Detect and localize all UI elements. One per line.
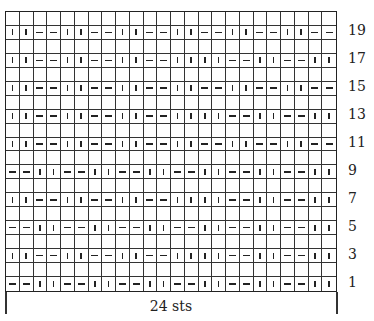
blank-stitch-cell: [254, 263, 268, 277]
knit-stitch-cell: [295, 138, 309, 152]
knit-stitch-cell: [309, 221, 323, 235]
purl-stitch-cell: [185, 165, 199, 179]
blank-stitch-cell: [34, 151, 48, 165]
blank-stitch-cell: [199, 68, 213, 82]
knit-stitch-cell: [309, 54, 323, 68]
blank-stitch-cell: [267, 68, 281, 82]
knit-stitch-cell: [20, 26, 34, 40]
knit-stitch-cell: [254, 110, 268, 124]
blank-stitch-cell: [130, 235, 144, 249]
blank-stitch-cell: [61, 40, 75, 54]
blank-stitch-cell: [61, 151, 75, 165]
purl-stitch-cell: [281, 54, 295, 68]
purl-stitch-cell: [322, 26, 336, 40]
purl-stitch-cell: [254, 138, 268, 152]
purl-stitch-cell: [61, 277, 75, 291]
blank-stitch-cell: [171, 68, 185, 82]
blank-stitch-cell: [199, 179, 213, 193]
blank-stitch-cell: [226, 12, 240, 26]
purl-stitch-cell: [144, 82, 158, 96]
blank-stitch-cell: [199, 151, 213, 165]
blank-stitch-cell: [47, 40, 61, 54]
blank-stitch-cell: [171, 96, 185, 110]
blank-stitch-cell: [89, 263, 103, 277]
blank-stitch-cell: [295, 12, 309, 26]
blank-stitch-cell: [212, 207, 226, 221]
purl-stitch-cell: [20, 277, 34, 291]
blank-stitch-cell: [240, 151, 254, 165]
knit-stitch-cell: [116, 82, 130, 96]
purl-stitch-cell: [281, 249, 295, 263]
blank-stitch-cell: [75, 40, 89, 54]
knit-stitch-cell: [34, 277, 48, 291]
purl-stitch-cell: [185, 221, 199, 235]
purl-stitch-cell: [171, 221, 185, 235]
knit-stitch-cell: [254, 249, 268, 263]
knit-stitch-cell: [89, 221, 103, 235]
purl-stitch-cell: [144, 249, 158, 263]
blank-stitch-cell: [185, 235, 199, 249]
purl-stitch-cell: [102, 110, 116, 124]
blank-stitch-cell: [61, 96, 75, 110]
knit-stitch-cell: [75, 193, 89, 207]
blank-stitch-cell: [157, 207, 171, 221]
blank-stitch-cell: [130, 12, 144, 26]
blank-stitch-cell: [254, 207, 268, 221]
blank-stitch-cell: [20, 12, 34, 26]
blank-stitch-cell: [47, 151, 61, 165]
blank-stitch-cell: [322, 68, 336, 82]
blank-stitch-cell: [89, 124, 103, 138]
purl-stitch-cell: [75, 221, 89, 235]
blank-stitch-cell: [75, 12, 89, 26]
blank-stitch-cell: [102, 40, 116, 54]
knit-stitch-cell: [267, 277, 281, 291]
blank-stitch-cell: [157, 179, 171, 193]
blank-stitch-cell: [20, 151, 34, 165]
purl-stitch-cell: [144, 193, 158, 207]
blank-stitch-cell: [61, 179, 75, 193]
blank-stitch-cell: [212, 96, 226, 110]
blank-stitch-cell: [281, 40, 295, 54]
blank-stitch-cell: [116, 179, 130, 193]
blank-stitch-cell: [240, 235, 254, 249]
purl-stitch-cell: [157, 54, 171, 68]
blank-stitch-cell: [20, 40, 34, 54]
blank-stitch-cell: [102, 12, 116, 26]
blank-stitch-cell: [185, 96, 199, 110]
blank-stitch-cell: [116, 235, 130, 249]
knit-stitch-cell: [322, 249, 336, 263]
blank-stitch-cell: [157, 68, 171, 82]
knit-stitch-cell: [130, 82, 144, 96]
knit-stitch-cell: [226, 26, 240, 40]
blank-stitch-cell: [240, 96, 254, 110]
purl-stitch-cell: [102, 193, 116, 207]
knit-stitch-cell: [130, 249, 144, 263]
blank-stitch-cell: [34, 40, 48, 54]
purl-stitch-cell: [199, 82, 213, 96]
knit-stitch-cell: [267, 110, 281, 124]
blank-stitch-cell: [171, 235, 185, 249]
blank-stitch-cell: [89, 12, 103, 26]
blank-stitch-cell: [102, 96, 116, 110]
blank-stitch-cell: [157, 96, 171, 110]
blank-stitch-cell: [47, 96, 61, 110]
blank-stitch-cell: [130, 68, 144, 82]
purl-stitch-cell: [226, 54, 240, 68]
blank-stitch-cell: [240, 40, 254, 54]
blank-stitch-cell: [199, 207, 213, 221]
knit-stitch-cell: [212, 249, 226, 263]
knit-stitch-cell: [61, 82, 75, 96]
blank-stitch-cell: [75, 124, 89, 138]
knit-stitch-cell: [116, 249, 130, 263]
row-label-13: 13: [348, 107, 366, 121]
knit-stitch-cell: [185, 54, 199, 68]
knit-stitch-cell: [254, 54, 268, 68]
knit-stitch-cell: [171, 110, 185, 124]
purl-stitch-cell: [295, 165, 309, 179]
blank-stitch-cell: [212, 68, 226, 82]
blank-stitch-cell: [20, 235, 34, 249]
knit-stitch-cell: [199, 110, 213, 124]
knit-stitch-cell: [254, 221, 268, 235]
purl-stitch-cell: [47, 26, 61, 40]
blank-stitch-cell: [89, 151, 103, 165]
